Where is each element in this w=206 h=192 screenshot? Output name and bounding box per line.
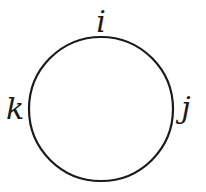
- label-i: i: [96, 4, 106, 39]
- circle-diagram: i j k: [0, 0, 206, 192]
- label-j: j: [175, 90, 190, 125]
- label-k: k: [6, 91, 24, 126]
- cycle-circle: [29, 37, 173, 181]
